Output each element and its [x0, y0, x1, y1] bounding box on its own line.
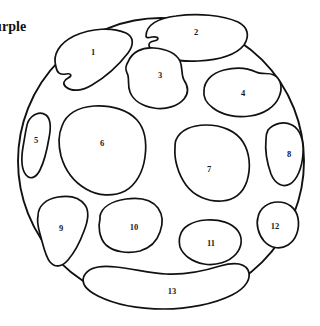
diagram-canvas: urple 1 2 3 4 5 6 7 8 9	[0, 0, 320, 326]
region-3-outline[interactable]	[126, 48, 187, 109]
region-12-outline[interactable]	[257, 202, 298, 248]
region-map-svg: 1 2 3 4 5 6 7 8 9 10 11 12 13	[0, 0, 320, 326]
region-10-outline[interactable]	[99, 198, 162, 252]
region-4-outline[interactable]	[204, 68, 281, 116]
region-11-outline[interactable]	[179, 220, 241, 265]
region-8-outline[interactable]	[266, 123, 303, 186]
